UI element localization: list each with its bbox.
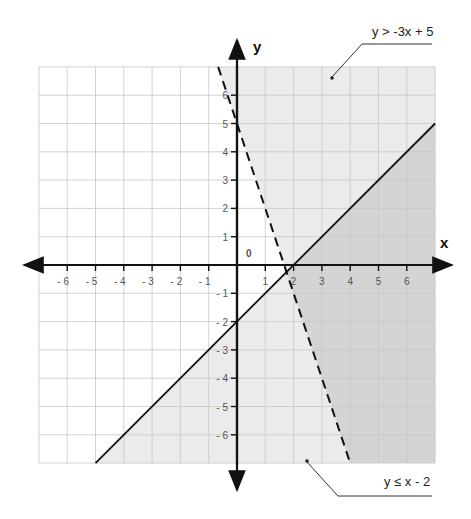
x-tick-label: - 3 (142, 276, 154, 287)
x-tick-label: 1 (263, 276, 269, 287)
callout-label-top: y > -3x + 5 (372, 24, 433, 39)
y-tick-label: 2 (222, 203, 228, 214)
y-tick-label: 3 (222, 175, 228, 186)
inequality-graph: - 6- 5- 4- 3- 2- 1123456- 6- 5- 4- 3- 2-… (0, 0, 471, 519)
y-axis-label: y (253, 38, 262, 55)
y-tick-label: - 5 (216, 402, 228, 413)
origin-label: 0 (246, 248, 252, 259)
x-tick-label: 6 (404, 276, 410, 287)
y-tick-label: - 6 (216, 430, 228, 441)
callout-dot-top (330, 76, 334, 80)
x-tick-label: - 4 (114, 276, 126, 287)
x-tick-label: 3 (319, 276, 325, 287)
x-tick-label: - 2 (171, 276, 183, 287)
x-axis-label: x (440, 234, 449, 251)
x-tick-label: - 6 (57, 276, 69, 287)
callout-dot-bottom (305, 459, 309, 463)
y-tick-label: 5 (222, 119, 228, 130)
plot-area: - 6- 5- 4- 3- 2- 1123456- 6- 5- 4- 3- 2-… (0, 0, 471, 519)
y-tick-label: 4 (222, 147, 228, 158)
y-tick-label: - 3 (216, 345, 228, 356)
x-tick-label: - 1 (199, 276, 211, 287)
y-tick-label: - 2 (216, 317, 228, 328)
callout-label-bottom: y ≤ x - 2 (384, 474, 430, 489)
y-tick-label: 1 (222, 232, 228, 243)
x-tick-label: 5 (376, 276, 382, 287)
x-tick-label: - 5 (86, 276, 98, 287)
y-tick-label: - 1 (216, 288, 228, 299)
x-tick-label: 4 (347, 276, 353, 287)
y-tick-label: - 4 (216, 373, 228, 384)
